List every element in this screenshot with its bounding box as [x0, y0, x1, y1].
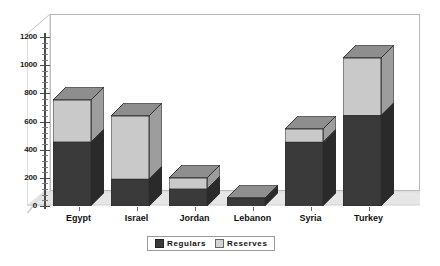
- bar-lebanon: [227, 185, 278, 206]
- legend-item-reserves: Reserves: [215, 239, 267, 248]
- x-axis-label-turkey: Turkey: [329, 213, 409, 223]
- light-square-icon: [215, 239, 224, 248]
- bar-side-regulars: [381, 103, 394, 206]
- legend-item-regulars: Regulars: [155, 239, 206, 248]
- bar-front-regulars: [169, 189, 207, 206]
- legend-label-reserves: Reserves: [227, 239, 267, 248]
- bar-front-regulars: [343, 116, 381, 206]
- bar-side-regulars: [91, 130, 104, 206]
- x-axis-tick: [195, 207, 196, 211]
- x-axis-tick: [253, 207, 254, 211]
- dark-square-icon: [155, 239, 164, 248]
- bar-egypt: [53, 87, 104, 206]
- legend-label-regulars: Regulars: [167, 239, 206, 248]
- x-axis-tick: [137, 207, 138, 211]
- bars-layer: [0, 0, 440, 266]
- chart-container: 120010008006004002000 EgyptIsraelJordanL…: [0, 0, 440, 266]
- bar-front-reserves: [343, 58, 381, 116]
- x-axis-tick: [311, 207, 312, 211]
- bar-side-regulars: [323, 130, 336, 206]
- bar-front-regulars: [53, 143, 91, 206]
- bar-front-regulars: [227, 199, 265, 206]
- bar-syria: [285, 116, 336, 206]
- bar-israel: [111, 103, 162, 206]
- bar-front-reserves: [111, 116, 149, 179]
- bar-front-reserves: [169, 178, 207, 189]
- bar-front-reserves: [53, 100, 91, 142]
- bar-jordan: [169, 165, 220, 206]
- bar-front-reserves: [285, 129, 323, 142]
- bar-turkey: [343, 45, 394, 206]
- x-axis-tick: [369, 207, 370, 211]
- x-axis-tick: [79, 207, 80, 211]
- bar-front-regulars: [285, 143, 323, 206]
- chart-legend: Regulars Reserves: [147, 236, 275, 251]
- bar-front-regulars: [111, 179, 149, 206]
